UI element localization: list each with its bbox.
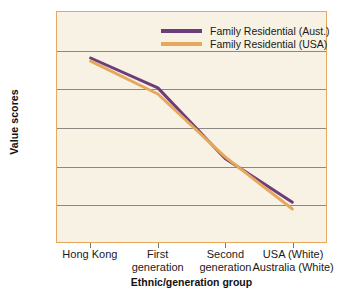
chart-legend: Family Residential (Aust.)Family Residen…	[161, 24, 330, 50]
gridline	[57, 128, 326, 129]
x-axis-tick-label: USA (White)Australia (White)	[245, 248, 337, 273]
chart-container: Value scores 22.533.544.55 Ethnic/genera…	[0, 0, 337, 292]
legend-color-swatch	[161, 29, 202, 33]
x-axis-tick-label-line: Australia (White)	[252, 261, 333, 273]
legend-item: Family Residential (Aust.)	[161, 24, 330, 37]
x-axis-tick-label-line: generation	[199, 261, 251, 273]
series-line	[91, 61, 293, 209]
legend-item: Family Residential (USA)	[161, 37, 330, 50]
x-axis-tick-label-line: generation	[132, 261, 184, 273]
legend-label: Family Residential (Aust.)	[210, 25, 330, 37]
gridline	[57, 167, 326, 168]
x-axis-tick-label-line: First	[147, 248, 168, 260]
legend-color-swatch	[161, 42, 202, 46]
gridline	[57, 205, 326, 206]
series-line	[91, 58, 293, 202]
x-axis-tick-label-line: Second	[207, 248, 244, 260]
gridline	[57, 51, 326, 52]
gridline	[57, 89, 326, 90]
x-axis-tick-label-line: USA (White)	[263, 248, 324, 260]
legend-label: Family Residential (USA)	[210, 38, 327, 50]
x-axis-title: Ethnic/generation group	[56, 276, 327, 288]
